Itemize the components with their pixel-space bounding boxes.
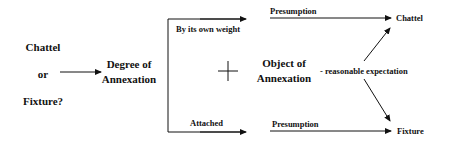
- object-annexation-label: Annexation: [257, 73, 311, 84]
- object-of-label: Object of: [262, 58, 306, 69]
- presumption-top-label: Presumption: [270, 7, 317, 16]
- question-fixture: Fixture?: [23, 96, 63, 107]
- outcome-fixture: Fixture: [397, 127, 424, 136]
- reasonable-expectation-label: - reasonable expectation: [320, 67, 408, 76]
- arrow-expectation-to-fixture: [364, 79, 390, 121]
- plus-icon: [218, 61, 238, 81]
- question-chattel: Chattel: [26, 42, 61, 53]
- branch-label-attached: Attached: [190, 119, 223, 128]
- outcome-chattel: Chattel: [396, 14, 423, 23]
- branch-label-own-weight: By its own weight: [176, 25, 240, 34]
- degree-annexation-label: Annexation: [102, 74, 156, 85]
- question-or: or: [38, 69, 48, 80]
- presumption-bottom-label: Presumption: [272, 120, 319, 129]
- branch-bracket: [168, 19, 245, 132]
- degree-of-label: Degree of: [107, 59, 152, 70]
- arrow-expectation-to-chattel: [364, 28, 390, 61]
